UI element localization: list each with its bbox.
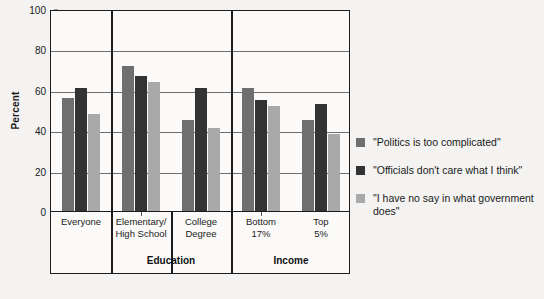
legend-swatch-icon [356, 138, 365, 147]
category-label-line: High School [111, 228, 171, 240]
category-label: Elementary/High School [111, 216, 171, 239]
bar [75, 88, 87, 211]
category-label-line: Elementary/ [111, 216, 171, 228]
y-tick-label: 60 [10, 85, 46, 96]
legend-item[interactable]: "Officials don't care what I think" [356, 164, 542, 178]
y-tick-label: 0 [10, 207, 46, 218]
supergroup-label: Education [111, 255, 231, 266]
legend-item[interactable]: "I have no say in what government does" [356, 192, 542, 218]
bar [315, 104, 327, 211]
category-label: Everyone [51, 216, 111, 228]
bar [148, 82, 160, 211]
category-label-line: College [171, 216, 231, 228]
category-label: CollegeDegree [171, 216, 231, 239]
category-label-line: 5% [291, 228, 351, 240]
y-tick-label: 40 [10, 126, 46, 137]
legend-item[interactable]: "Politics is too complicated" [356, 136, 542, 150]
legend-swatch-icon [356, 166, 365, 175]
bar [135, 76, 147, 211]
bar [208, 128, 220, 211]
y-axis-ticks: 100806040200 [10, 0, 46, 212]
bar [62, 98, 74, 211]
category-label-line: Top [291, 216, 351, 228]
category-label: Bottom17% [231, 216, 291, 239]
legend-label: "Politics is too complicated" [373, 136, 542, 149]
category-label-line: Everyone [51, 216, 111, 228]
supergroup-label: Income [231, 255, 351, 266]
y-tick-label: 20 [10, 166, 46, 177]
bar [268, 106, 280, 211]
category-label-line: Degree [171, 228, 231, 240]
plot-area [50, 10, 350, 212]
bar [302, 120, 314, 211]
bar [122, 66, 134, 211]
bar [255, 100, 267, 211]
legend-label: "Officials don't care what I think" [373, 164, 542, 177]
bar [88, 114, 100, 211]
category-label-box: EveryoneElementary/High SchoolCollegeDeg… [50, 212, 350, 274]
bars-layer [51, 11, 349, 211]
bar [328, 134, 340, 211]
chart-legend: "Politics is too complicated""Officials … [356, 136, 542, 232]
legend-label: "I have no say in what government does" [373, 192, 542, 218]
y-tick-label: 100 [10, 5, 46, 16]
bar-chart: Percent 100806040200 EveryoneElementary/… [0, 0, 544, 299]
legend-swatch-icon [356, 194, 365, 203]
category-label: Top5% [291, 216, 351, 239]
bar [195, 88, 207, 211]
category-label-line: Bottom [231, 216, 291, 228]
y-tick-label: 80 [10, 45, 46, 56]
category-label-line: 17% [231, 228, 291, 240]
bar [242, 88, 254, 211]
bar [182, 120, 194, 211]
